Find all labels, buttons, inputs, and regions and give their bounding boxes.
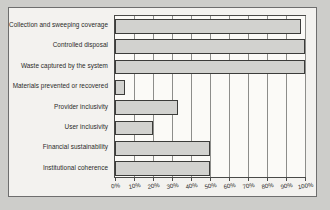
category-label: Controlled disposal [53, 35, 108, 55]
bar-row [115, 118, 305, 138]
bar [115, 60, 305, 75]
plot-area [114, 15, 306, 178]
figure-root: Collection and sweeping coverageControll… [0, 0, 330, 210]
bar [115, 141, 210, 156]
x-tick-mark [115, 178, 116, 181]
bar [115, 161, 210, 176]
category-label: Financial sustainability [43, 137, 108, 157]
category-label: Institutional coherence [43, 158, 108, 178]
x-tick-mark [248, 178, 249, 181]
x-tick-label: 100% [294, 180, 317, 190]
x-tick-mark [153, 178, 154, 181]
category-label: Waste captured by the system [21, 56, 108, 76]
category-axis: Collection and sweeping coverageControll… [9, 15, 112, 178]
category-label: User inclusivity [65, 117, 108, 137]
chart-container: Collection and sweeping coverageControll… [9, 8, 316, 196]
x-tick-mark [172, 178, 173, 181]
bar-row [115, 77, 305, 97]
x-tick-mark [286, 178, 287, 181]
category-label: Collection and sweeping coverage [9, 15, 108, 35]
gridline [305, 16, 306, 177]
chart-paper-panel: Collection and sweeping coverageControll… [8, 7, 317, 197]
bar-row [115, 138, 305, 158]
category-label: Materials prevented or recovered [13, 76, 108, 96]
x-tick-mark [267, 178, 268, 181]
x-axis: 0%10%20%30%40%50%60%70%80%90%100% [114, 178, 306, 198]
bar-row [115, 98, 305, 118]
x-tick-mark [229, 178, 230, 181]
x-tick-mark [210, 178, 211, 181]
bar [115, 39, 305, 54]
bar [115, 19, 301, 34]
bar-row [115, 159, 305, 179]
bar [115, 100, 178, 115]
bar-row [115, 57, 305, 77]
bar-row [115, 16, 305, 36]
x-tick-mark [134, 178, 135, 181]
category-label: Provider inclusivity [54, 97, 108, 117]
bar [115, 121, 153, 136]
x-tick-mark [191, 178, 192, 181]
bar [115, 80, 125, 95]
bar-row [115, 36, 305, 56]
x-tick-mark [305, 178, 306, 181]
